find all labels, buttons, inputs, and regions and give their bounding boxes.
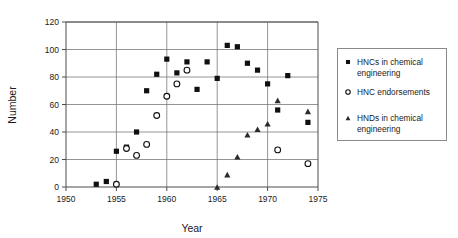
data-point	[114, 149, 119, 154]
series-2	[214, 98, 311, 190]
y-tick-label: 60	[50, 100, 60, 110]
chart-legend: HNCs in chemicalengineeringHNC endorseme…	[338, 49, 447, 141]
series-0	[94, 43, 311, 187]
y-tick-label: 120	[45, 17, 59, 27]
legend-label: HNC endorsements	[357, 87, 430, 97]
data-point	[114, 181, 120, 187]
y-tick-label: 80	[50, 72, 60, 82]
data-point	[255, 68, 260, 73]
scatter-chart: 195019551960196519701975 020406080100120…	[0, 0, 458, 238]
data-point	[275, 107, 280, 112]
data-point	[215, 76, 220, 81]
chart-figure: 195019551960196519701975 020406080100120…	[0, 0, 458, 238]
x-tick-label: 1970	[258, 194, 277, 204]
chart-data-points	[94, 43, 311, 190]
y-axis-tick-labels: 020406080100120	[45, 17, 59, 192]
chart-tick-marks	[62, 22, 318, 191]
data-point	[275, 98, 281, 104]
data-point	[225, 43, 230, 48]
data-point	[305, 120, 310, 125]
data-point	[134, 129, 139, 134]
y-tick-label: 0	[54, 182, 59, 192]
x-tick-label: 1960	[157, 194, 176, 204]
legend-label-cont: engineering	[357, 124, 401, 134]
data-point	[305, 109, 311, 115]
data-point	[144, 88, 149, 93]
data-point	[305, 161, 311, 167]
data-point	[154, 72, 159, 77]
x-tick-label: 1965	[208, 194, 227, 204]
data-point	[254, 126, 260, 132]
legend-label-cont: engineering	[357, 68, 401, 78]
data-point	[245, 61, 250, 66]
data-point	[265, 121, 271, 127]
data-point	[285, 73, 290, 78]
data-point	[174, 70, 179, 75]
data-point	[94, 182, 99, 187]
y-tick-label: 40	[50, 127, 60, 137]
data-point	[124, 146, 130, 152]
data-point	[134, 152, 140, 158]
chart-gridlines	[66, 22, 318, 187]
data-point	[154, 113, 160, 119]
legend-marker	[346, 60, 350, 64]
x-axis-title: Year	[181, 222, 203, 234]
y-axis-title: Number	[6, 86, 18, 124]
legend-label: HNDs in chemical	[357, 113, 423, 123]
data-point	[234, 154, 240, 160]
data-point	[275, 147, 281, 153]
legend-marker	[346, 90, 351, 95]
y-tick-label: 100	[45, 45, 59, 55]
data-point	[184, 59, 189, 64]
data-point	[144, 141, 150, 147]
legend-label: HNCs in chemical	[357, 57, 423, 67]
data-point	[164, 57, 169, 62]
y-tick-label: 20	[50, 155, 60, 165]
x-tick-label: 1955	[107, 194, 126, 204]
x-axis-tick-labels: 195019551960196519701975	[57, 194, 328, 204]
x-tick-label: 1975	[309, 194, 328, 204]
series-1	[114, 67, 311, 187]
data-point	[174, 81, 180, 87]
data-point	[205, 59, 210, 64]
data-point	[224, 172, 230, 178]
x-tick-label: 1950	[57, 194, 76, 204]
data-point	[104, 179, 109, 184]
data-point	[244, 132, 250, 138]
data-point	[194, 87, 199, 92]
data-point	[265, 81, 270, 86]
data-point	[184, 67, 190, 73]
data-point	[235, 44, 240, 49]
data-point	[164, 93, 170, 99]
